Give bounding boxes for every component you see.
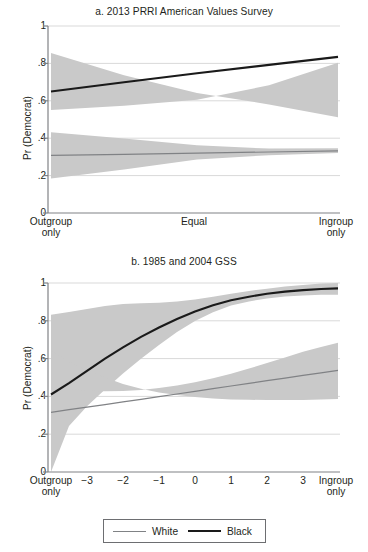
panel-b-xtick-outgroup-l2: only	[30, 486, 72, 497]
legend-item-white[interactable]: White	[113, 520, 178, 542]
panel-b-xtick-neg3: −3	[81, 475, 93, 486]
panel-a-plot	[0, 0, 368, 250]
chart-panel-b: b. 1985 and 2004 GSS Pr (Democrat) 1 .8 …	[0, 250, 368, 508]
panel-b-xtick-outgroup-l1: Outgroup	[30, 475, 72, 486]
panel-a-xtick-outgroup: Outgroup only	[30, 216, 72, 238]
panel-a-xtick-outgroup-l2: only	[30, 227, 72, 238]
panel-b-xtick-neg1: −1	[153, 475, 165, 486]
figure-container: a. 2013 PRRI American Values Survey Pr (…	[0, 0, 368, 552]
panel-a-xtick-ingroup-l1: Ingroup	[319, 216, 354, 227]
panel-b-y-ticks	[43, 283, 48, 472]
panel-a-ci-band-white	[51, 132, 338, 178]
legend-item-black[interactable]: Black	[188, 520, 252, 542]
chart-legend: White Black	[103, 519, 266, 543]
panel-a-y-ticks	[43, 26, 48, 213]
chart-panel-a: a. 2013 PRRI American Values Survey Pr (…	[0, 0, 368, 250]
legend-label-white: White	[152, 526, 178, 537]
panel-b-xtick-neg2: −2	[117, 475, 129, 486]
panel-a-xtick-ingroup-l2: only	[319, 227, 354, 238]
panel-b-xtick-ingroup-l1: Ingroup	[319, 475, 354, 486]
panel-b-xtick-0: 0	[192, 475, 198, 486]
legend-line-white-icon	[113, 531, 146, 532]
panel-a-xtick-ingroup: Ingroup only	[319, 216, 354, 238]
panel-a-xtick-equal-l1: Equal	[181, 216, 207, 227]
panel-b-xtick-1: 1	[228, 475, 234, 486]
panel-b-plot	[0, 250, 368, 508]
panel-b-xtick-ingroup: Ingroup only	[319, 475, 354, 497]
panel-a-xtick-outgroup-l1: Outgroup	[30, 216, 72, 227]
panel-a-xtick-equal: Equal	[181, 216, 207, 227]
panel-b-xtick-outgroup: Outgroup only	[30, 475, 72, 497]
legend-label-black: Black	[227, 526, 252, 537]
panel-b-xtick-3: 3	[300, 475, 306, 486]
legend-line-black-icon	[188, 530, 221, 532]
panel-b-xtick-ingroup-l2: only	[319, 486, 354, 497]
panel-b-xtick-2: 2	[264, 475, 270, 486]
